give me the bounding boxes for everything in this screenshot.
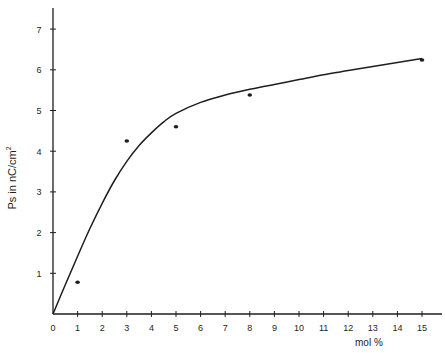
x-tick-label: 9 <box>272 323 277 333</box>
data-point <box>125 139 130 143</box>
x-tick-label: 4 <box>149 323 154 333</box>
data-point <box>75 280 80 284</box>
x-tick-label: 5 <box>173 323 178 333</box>
data-points <box>75 58 424 284</box>
y-tick-label: 2 <box>36 228 41 238</box>
data-point <box>248 93 253 97</box>
y-tick-label: 4 <box>36 147 41 157</box>
y-tick-label: 7 <box>36 25 41 35</box>
fit-curve <box>53 58 422 314</box>
y-axis-label: Ps in nC/cm2 <box>5 146 18 209</box>
x-tick-label: 10 <box>294 323 304 333</box>
x-tick-label: 3 <box>124 323 129 333</box>
axes <box>53 8 442 314</box>
data-point <box>174 125 179 129</box>
y-axis-label-superscript: 2 <box>5 146 12 150</box>
x-tick-label: 12 <box>343 323 353 333</box>
x-tick-label: 13 <box>368 323 378 333</box>
x-tick-label: 0 <box>50 323 55 333</box>
y-tick-label: 5 <box>36 106 41 116</box>
data-point <box>420 58 425 62</box>
tick-marks: 01234567891011121314151234567 <box>36 25 427 333</box>
x-axis-label: mol % <box>355 337 383 348</box>
x-tick-label: 6 <box>198 323 203 333</box>
y-axis-label-text: Ps in nC/cm <box>6 150 18 209</box>
y-tick-label: 3 <box>36 187 41 197</box>
fit-curve-path <box>53 58 422 314</box>
y-tick-label: 1 <box>36 269 41 279</box>
x-tick-label: 14 <box>392 323 402 333</box>
x-tick-label: 7 <box>223 323 228 333</box>
chart: 01234567891011121314151234567 mol % Ps i… <box>0 0 445 353</box>
x-tick-label: 8 <box>247 323 252 333</box>
x-tick-label: 1 <box>75 323 80 333</box>
x-tick-label: 11 <box>319 323 328 333</box>
y-tick-label: 6 <box>36 65 41 75</box>
x-tick-label: 2 <box>100 323 105 333</box>
x-tick-label: 15 <box>417 323 427 333</box>
